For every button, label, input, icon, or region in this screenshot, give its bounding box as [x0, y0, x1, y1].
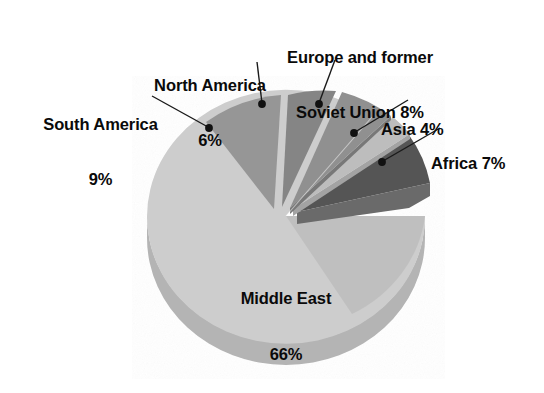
label-africa: Africa 7%	[431, 117, 544, 209]
label-europe-line1: Europe and former	[269, 48, 451, 66]
label-middle-east-value: 66%	[196, 345, 376, 364]
label-africa-line1: Africa 7%	[431, 154, 544, 172]
label-middle-east-name: Middle East	[196, 289, 376, 308]
pie-chart-figure: South America 9% North America 6% Europe…	[0, 0, 544, 393]
label-middle-east: Middle East 66%	[196, 251, 376, 393]
